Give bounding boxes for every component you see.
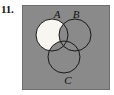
- venn-diagram-svg: A B C: [22, 5, 110, 90]
- venn-figure: 11. A: [0, 0, 114, 95]
- venn-panel: A B C: [22, 5, 110, 90]
- set-label-a: A: [53, 8, 61, 20]
- item-number-label: 11.: [1, 3, 14, 16]
- set-label-b: B: [73, 8, 80, 20]
- set-label-c: C: [64, 74, 72, 86]
